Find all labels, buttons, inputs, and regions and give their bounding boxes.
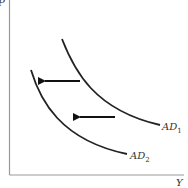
ad2-curve (31, 70, 127, 154)
x-axis-label: Y (176, 177, 184, 188)
ad1-label: AD1 (161, 121, 182, 135)
ad-shift-diagram: P AD1 AD2 Y (0, 0, 188, 188)
y-axis-label: P (0, 0, 5, 8)
ad2-label: AD2 (129, 150, 150, 164)
ad1-curve (62, 39, 160, 125)
